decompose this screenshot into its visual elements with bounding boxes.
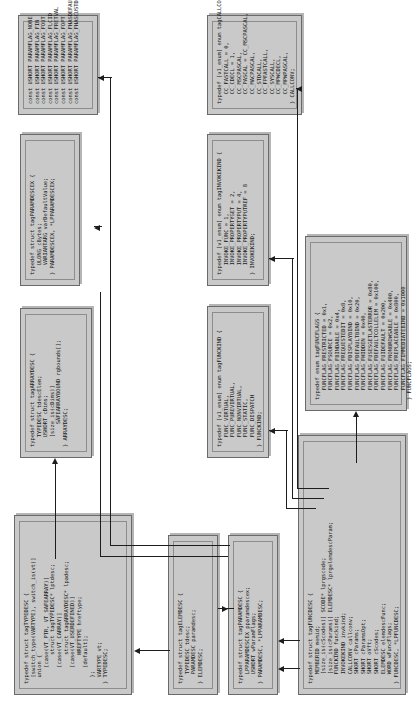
connector-paramdesc-to-paramdescex-vertical bbox=[100, 556, 228, 557]
enum-box-funcflags-inner: typedef enum tagFUNCFLAGS { FUNCFLAG_FRE… bbox=[310, 242, 402, 405]
code-typedesc: typedef struct tagTYPEDESC { [switch_typ… bbox=[23, 526, 109, 684]
connector-paramdescex-stub bbox=[94, 227, 102, 228]
const-box-paramflags-inner: const USHORT PARAMFLAG_NONE = 0x00; cons… bbox=[23, 21, 93, 109]
connector-funcdesc-to-invokekind-horizontal bbox=[292, 259, 293, 499]
enum-box-invokekind-inner: typedef [v1_enum] enum tagINVOKEKIND { I… bbox=[212, 140, 264, 280]
code-funckind: typedef [v1_enum] enum tagFUNCKIND { FUN… bbox=[216, 317, 262, 447]
arrowhead-typedesc-to-arraydesc bbox=[52, 458, 58, 464]
connector-paramdesc-to-paramflags-horizontal bbox=[110, 78, 111, 546]
arrowhead-funcdesc-to-funcflags bbox=[353, 411, 359, 417]
connector-paramdesc-to-paramdescex-horizontal bbox=[100, 292, 101, 557]
struct-box-paramdescex: typedef struct tagPARAMDESCEX { ULONG cB… bbox=[20, 134, 80, 286]
struct-box-typedesc-inner: typedef struct tagTYPEDESC { [switch_typ… bbox=[19, 521, 127, 689]
struct-box-arraydesc: typedef struct tagARRAYDESC { TYPEDESC t… bbox=[20, 308, 92, 458]
code-paramdesc: typedef struct tagPARAMDESC { LPPARAMDES… bbox=[237, 546, 263, 684]
enum-box-funcflags: typedef enum tagFUNCFLAGS { FUNCFLAG_FRE… bbox=[305, 236, 407, 411]
struct-box-funcdesc-inner: typedef struct tagFUNCDESC { MEMBERID me… bbox=[303, 441, 401, 689]
enum-box-funckind-inner: typedef [v1_enum] enum tagFUNCKIND { FUN… bbox=[212, 312, 264, 452]
code-funcflags: typedef enum tagFUNCFLAGS { FUNCFLAG_FRE… bbox=[314, 247, 413, 400]
diagram-rotated-content: typedef struct tagTYPEDESC { [switch_typ… bbox=[0, 0, 417, 709]
enum-box-funckind: typedef [v1_enum] enum tagFUNCKIND { FUN… bbox=[207, 306, 269, 458]
enum-box-callconv-inner: typedef [v1_enum] enum tagCALLCONV { CC_… bbox=[212, 21, 297, 109]
arrowhead-funcdesc-elemdescfunc-to-elemdesc bbox=[278, 639, 284, 645]
struct-box-elemdesc: typedef struct tagELEMDESC { TYPEDESC td… bbox=[168, 535, 218, 695]
struct-box-paramdescex-inner: typedef struct tagPARAMDESCEX { ULONG cB… bbox=[25, 140, 75, 280]
arrowhead-funcdesc-to-elemdesc bbox=[278, 667, 284, 673]
code-funcdesc: typedef struct tagFUNCDESC { MEMBERID me… bbox=[307, 446, 399, 684]
arrowhead-elemdesc-to-typedesc bbox=[134, 649, 140, 655]
connector-callconv-stub bbox=[296, 88, 300, 89]
struct-box-funcdesc: typedef struct tagFUNCDESC { MEMBERID me… bbox=[298, 435, 406, 695]
struct-box-paramdesc: typedef struct tagPARAMDESC { LPPARAMDES… bbox=[228, 535, 278, 695]
code-paramdescex: typedef struct tagPARAMDESCEX { ULONG cB… bbox=[29, 145, 55, 275]
connector-funcdesc-to-invokekind-vertical bbox=[292, 498, 324, 499]
diagram-canvas: typedef struct tagTYPEDESC { [switch_typ… bbox=[0, 0, 417, 709]
enum-box-callconv: typedef [v1_enum] enum tagCALLCONV { CC_… bbox=[207, 15, 302, 115]
arrowhead-elemdesc-to-paramdesc bbox=[222, 607, 228, 613]
connector-funcdesc-to-callconv-horizontal bbox=[297, 89, 298, 489]
connector-funcdesc-to-callconv-vertical bbox=[297, 488, 329, 489]
connector-funcdesc-to-elemdesc bbox=[284, 668, 300, 669]
connector-typedesc-to-arraydesc bbox=[55, 464, 56, 559]
code-elemdesc: typedef struct tagELEMDESC { TYPEDESC td… bbox=[177, 546, 203, 684]
code-arraydesc: typedef struct tagARRAYDESC { TYPEDESC t… bbox=[29, 319, 69, 447]
struct-box-typedesc: typedef struct tagTYPEDESC { [switch_typ… bbox=[14, 515, 132, 695]
connector-funcdesc-to-funcflags bbox=[356, 417, 357, 463]
connector-funcdesc-to-funckind-vertical bbox=[286, 508, 316, 509]
struct-box-paramdesc-inner: typedef struct tagPARAMDESC { LPPARAMDES… bbox=[233, 541, 273, 689]
connector-elemdesc-to-typedesc bbox=[140, 650, 170, 651]
connector-invokekind-stub bbox=[269, 258, 294, 259]
connector-funcdesc-to-funckind-horizontal bbox=[286, 431, 287, 509]
code-callconv: typedef [v1_enum] enum tagCALLCONV { CC_… bbox=[216, 26, 295, 104]
connector-funckind-stub bbox=[269, 430, 288, 431]
const-box-paramflags: const USHORT PARAMFLAG_NONE = 0x00; cons… bbox=[18, 15, 98, 115]
enum-box-invokekind: typedef [v1_enum] enum tagINVOKEKIND { I… bbox=[207, 134, 269, 286]
code-invokekind: typedef [v1_enum] enum tagINVOKEKIND { I… bbox=[216, 145, 256, 275]
connector-paramflags-stub bbox=[98, 77, 112, 78]
struct-box-arraydesc-inner: typedef struct tagARRAYDESC { TYPEDESC t… bbox=[25, 314, 87, 452]
connector-paramdesc-to-paramflags-vertical bbox=[110, 545, 230, 546]
struct-box-elemdesc-inner: typedef struct tagELEMDESC { TYPEDESC td… bbox=[173, 541, 213, 689]
connector-funcdesc-elemdescfunc-to-elemdesc bbox=[284, 640, 300, 641]
code-paramflags: const USHORT PARAMFLAG_NONE = 0x00; cons… bbox=[27, 26, 80, 104]
